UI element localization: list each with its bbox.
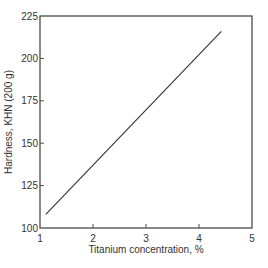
data-series bbox=[46, 31, 222, 214]
x-tick-label: 5 bbox=[249, 233, 255, 244]
y-tick-label: 100 bbox=[21, 223, 38, 234]
y-tick-label: 225 bbox=[21, 11, 38, 22]
y-tick-label: 200 bbox=[21, 53, 38, 64]
x-tick-label: 2 bbox=[90, 233, 96, 244]
chart: 12345 100125150175200225 Titanium concen… bbox=[0, 0, 268, 268]
plot-frame bbox=[40, 16, 252, 228]
x-axis-label: Titanium concentration, % bbox=[88, 244, 203, 255]
y-tick-label: 175 bbox=[21, 95, 38, 106]
data-line bbox=[46, 31, 222, 214]
x-tick-label: 1 bbox=[37, 233, 43, 244]
y-tick-label: 150 bbox=[21, 138, 38, 149]
plot-border bbox=[40, 16, 252, 228]
x-tick-label: 3 bbox=[143, 233, 149, 244]
x-tick-label: 4 bbox=[196, 233, 202, 244]
y-tick-label: 125 bbox=[21, 180, 38, 191]
y-axis-label: Hardness, KHN (200 g) bbox=[3, 70, 14, 174]
x-axis-ticks: 12345 bbox=[37, 224, 255, 244]
